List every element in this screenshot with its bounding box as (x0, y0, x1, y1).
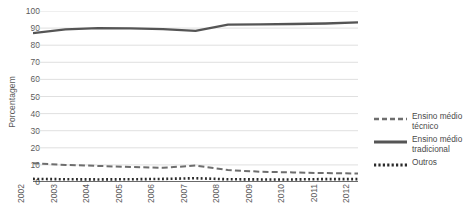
line-chart: Porcentagem 1009080706050403020100 20022… (0, 0, 469, 217)
x-axis-tick-2003: 2003 (49, 184, 83, 194)
x-axis-tick-2004: 2004 (81, 184, 115, 194)
legend-label: Ensino médio técnico (412, 112, 462, 131)
x-axis-tick-2009: 2009 (244, 184, 278, 194)
x-axis-tick-label: 2002 (16, 184, 26, 203)
plot-svg (33, 11, 358, 182)
legend-label: Outros (412, 158, 437, 168)
x-axis-tick-label: 2003 (49, 184, 59, 203)
series-lines (33, 22, 358, 179)
x-axis-tick-2012: 2012 (341, 184, 375, 194)
legend-item[interactable]: Ensino médio técnico (374, 112, 469, 131)
legend-swatch-dashed-icon (374, 112, 407, 126)
x-axis-tick-label: 2008 (211, 184, 221, 203)
x-axis-tick-label: 2006 (146, 184, 156, 203)
x-axis-tick-2010: 2010 (276, 184, 310, 194)
x-axis-tick-2008: 2008 (211, 184, 245, 194)
x-axis-tick-label: 2005 (114, 184, 124, 203)
x-axis-tick-label: 2009 (244, 184, 254, 203)
chart-legend: Ensino médio técnicoEnsino médio tradici… (374, 112, 469, 176)
legend-item[interactable]: Outros (374, 158, 469, 172)
x-axis-tick-label: 2010 (276, 184, 286, 203)
legend-swatch-solid-icon (374, 135, 407, 149)
x-axis-tick-2011: 2011 (309, 184, 343, 194)
x-axis-tick-2002: 2002 (16, 184, 50, 194)
legend-label: Ensino médio tradicional (412, 135, 462, 154)
legend-item[interactable]: Ensino médio tradicional (374, 135, 469, 154)
x-axis-tick-2006: 2006 (146, 184, 180, 194)
series-line-2 (33, 178, 358, 179)
plot-area (33, 11, 358, 182)
x-axis-tick-2007: 2007 (179, 184, 213, 194)
gridlines (33, 11, 358, 182)
x-axis-tick-label: 2004 (81, 184, 91, 203)
legend-swatch-dotted-icon (374, 158, 407, 172)
x-axis-tick-label: 2011 (309, 184, 319, 202)
x-axis-tick-labels: 2002200320042005200620072008200920102011… (33, 184, 358, 217)
x-axis-tick-label: 2012 (341, 184, 351, 203)
x-axis-tick-2005: 2005 (114, 184, 148, 194)
x-axis-tick-label: 2007 (179, 184, 189, 203)
